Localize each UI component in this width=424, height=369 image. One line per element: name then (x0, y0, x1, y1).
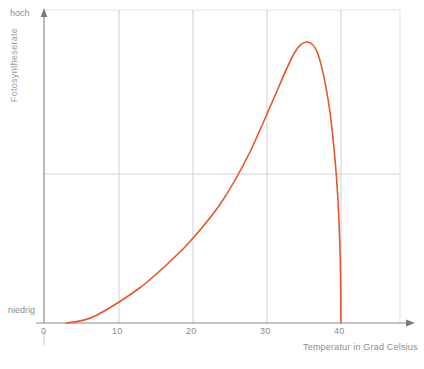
photosynthesis-curve (66, 42, 341, 323)
x-axis (36, 320, 415, 327)
x-tick-label-10: 10 (112, 326, 122, 336)
x-axis-title: Temperatur in Grad Celsius (303, 342, 418, 352)
vertical-gridlines (119, 10, 341, 323)
photosynthesis-rate-chart: hoch niedrig Fotosyntheserate 0 10 20 30… (0, 0, 424, 369)
x-tick-label-0: 0 (41, 326, 46, 336)
y-axis-low-label: niedrig (8, 305, 35, 315)
plot-frame (44, 10, 400, 323)
chart-canvas (0, 0, 424, 369)
y-axis (41, 8, 48, 323)
x-tick-label-20: 20 (186, 326, 196, 336)
x-tick-label-40: 40 (334, 326, 344, 336)
y-axis-title: Fotosyntheserate (9, 5, 19, 125)
x-tick-label-30: 30 (260, 326, 270, 336)
